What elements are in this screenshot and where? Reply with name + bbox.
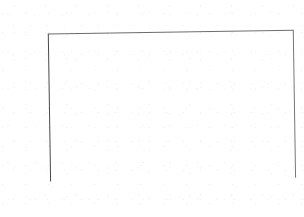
y-axis-tick-labels	[19, 34, 47, 182]
x-axis-category-labels	[0, 0, 302, 2]
y-axis-title	[15, 68, 16, 128]
chart-floor	[49, 31, 295, 182]
plot-area	[48, 30, 296, 182]
chart-title	[24, 0, 294, 8]
bar-chart-figure	[0, 0, 304, 217]
